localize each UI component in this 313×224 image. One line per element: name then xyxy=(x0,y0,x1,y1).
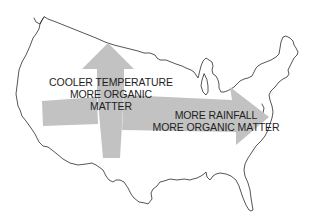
lake-michigan-outline xyxy=(201,74,208,95)
cooler-label-line-1: COOLER TEMPERATURE xyxy=(46,76,176,88)
cooler-label-line-2: MORE ORGANIC xyxy=(46,88,176,100)
puget-sound-detail xyxy=(34,17,44,24)
more-rainfall-label: MORE RAINFALL MORE ORGANIC MATTER xyxy=(150,109,282,133)
cooler-temperature-label: COOLER TEMPERATURE MORE ORGANIC MATTER xyxy=(46,76,176,112)
rainfall-label-line-1: MORE RAINFALL xyxy=(150,109,282,121)
us-organic-matter-map: COOLER TEMPERATURE MORE ORGANIC MATTER M… xyxy=(0,0,313,224)
rainfall-label-line-2: MORE ORGANIC MATTER xyxy=(150,121,282,133)
